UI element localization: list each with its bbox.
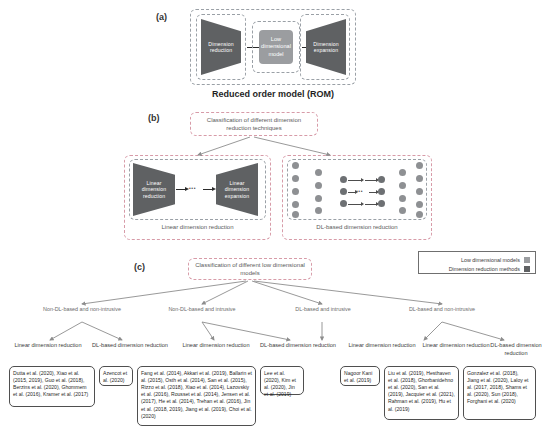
network-node bbox=[399, 182, 406, 189]
network-node bbox=[416, 175, 423, 182]
legend-swatch-1 bbox=[524, 266, 530, 272]
network-node bbox=[399, 195, 406, 202]
panel-c-root-label: Classification of different low dimensio… bbox=[193, 261, 307, 277]
citation-box-b0-l0: Dutta et al. (2020), Xiao et al. (2015, … bbox=[9, 366, 95, 407]
dimension-expansion-label: Dimension expansion bbox=[306, 19, 346, 75]
network-node-bottleneck bbox=[378, 188, 385, 195]
panel-a-low-dimensional-model-block: Low dimensional model bbox=[259, 30, 293, 64]
network-ellipsis: ••• bbox=[356, 188, 363, 194]
network-node bbox=[399, 169, 406, 176]
citation-box-b1-l1: Lee et al. (2020), Kim et al. (2020), Ji… bbox=[260, 366, 304, 395]
network-node bbox=[292, 162, 299, 169]
legend-item-dimension-reduction-methods: Dimension reduction methods bbox=[424, 264, 530, 273]
panel-a-dimension-expansion-block: Dimension expansion bbox=[306, 19, 346, 75]
network-node-bottleneck bbox=[340, 176, 347, 183]
panel-b-arrow-a bbox=[176, 189, 186, 190]
panel-b-dl-caption: DL-based dimension reduction bbox=[282, 224, 432, 230]
panel-a-low-dimensional-model-label: Low dimensional model bbox=[259, 36, 293, 58]
network-node bbox=[416, 188, 423, 195]
network-node-bottleneck bbox=[378, 200, 385, 207]
panel-c-root-node: Classification of different low dimensio… bbox=[188, 258, 312, 280]
network-node bbox=[399, 207, 406, 214]
panel-b-dl-network: ••• bbox=[287, 159, 427, 220]
network-node-bottleneck bbox=[340, 200, 347, 207]
panel-a-caption: Reduced order model (ROM) bbox=[190, 89, 356, 99]
legend-swatch-0 bbox=[524, 257, 530, 263]
leaf-label-b3-l0: Linear dimension reduction bbox=[416, 342, 496, 350]
citation-box-b3-l0: Liu et al. (2019), Hesthaven et al. (201… bbox=[384, 366, 459, 420]
branch-label-dl-intrusive: DL-based and intrusive bbox=[282, 306, 364, 313]
network-node bbox=[315, 182, 322, 189]
citation-box-b0-l1: Azencot et al. (2020) bbox=[99, 366, 133, 386]
leaf-label-b1-l1: DL-based dimension reduction bbox=[256, 342, 340, 350]
network-node bbox=[416, 201, 423, 208]
panel-b-root-label: Classification of different dimension re… bbox=[195, 116, 313, 132]
linear-dimension-expansion-label: Linear dimension expansion bbox=[216, 163, 258, 216]
branch-label-non-dl-non-intrusive: Non-DL-based and non-intrusive bbox=[36, 306, 128, 313]
leaf-label-b2-l0: Linear dimension reduction bbox=[342, 342, 422, 350]
panel-a-dimension-reduction-block: Dimension reduction bbox=[201, 19, 241, 75]
panel-b-ellipsis: ••• bbox=[189, 185, 196, 191]
branch-label-dl-non-intrusive: DL-based and non-intrusive bbox=[398, 306, 486, 313]
panel-a-letter: (a) bbox=[156, 12, 167, 22]
network-node-bottleneck bbox=[340, 188, 347, 195]
branch-label-non-dl-intrusive: Non-DL-based and intrusive bbox=[156, 306, 248, 313]
network-arrow bbox=[348, 192, 355, 193]
legend-label-1: Dimension reduction methods bbox=[449, 266, 520, 272]
citation-box-b1-l0: Fang et al. (2014), Akkari et al. (2019)… bbox=[137, 366, 256, 426]
network-node bbox=[292, 201, 299, 208]
network-node bbox=[315, 207, 322, 214]
linear-dimension-reduction-label: Linear dimension reduction bbox=[133, 163, 175, 216]
network-node bbox=[292, 188, 299, 195]
legend: Low dimensional models Dimension reducti… bbox=[418, 251, 536, 274]
network-node bbox=[315, 169, 322, 176]
network-node bbox=[416, 162, 423, 169]
panel-b-arrow-b bbox=[203, 189, 213, 190]
network-arrow bbox=[348, 204, 361, 205]
dimension-reduction-label: Dimension reduction bbox=[201, 19, 241, 75]
legend-item-low-dimensional-models: Low dimensional models bbox=[424, 255, 530, 264]
network-arrow bbox=[369, 192, 376, 193]
network-arrow bbox=[365, 204, 376, 205]
network-node bbox=[292, 175, 299, 182]
network-arrow bbox=[348, 180, 361, 181]
panel-b-linear-caption: Linear dimension reduction bbox=[124, 224, 271, 230]
citation-box-b3-l1: Gonzalez et al. (2018), Jiang et al. (20… bbox=[463, 366, 536, 420]
network-arrow bbox=[365, 180, 376, 181]
panel-b-linear-expansion-block: Linear dimension expansion bbox=[216, 163, 258, 216]
panel-b-letter: (b) bbox=[148, 113, 160, 123]
leaf-label-b1-l0: Linear dimension reduction bbox=[176, 342, 256, 350]
legend-label-0: Low dimensional models bbox=[461, 257, 520, 263]
leaf-label-b0-l1: DL-based dimension reduction bbox=[88, 342, 172, 350]
network-node bbox=[416, 211, 423, 218]
panel-b-linear-reduction-block: Linear dimension reduction bbox=[133, 163, 175, 216]
leaf-label-b0-l0: Linear dimension reduction bbox=[8, 342, 88, 350]
leaf-label-b3-l1: DL-based dimension reduction bbox=[488, 342, 544, 357]
panel-b-root-node: Classification of different dimension re… bbox=[190, 112, 318, 136]
network-node bbox=[292, 211, 299, 218]
network-node bbox=[315, 195, 322, 202]
citation-box-b2-l0: Nagoor Kani et al. (2019) bbox=[340, 366, 380, 386]
network-node-bottleneck bbox=[378, 176, 385, 183]
panel-c-letter: (c) bbox=[134, 262, 145, 272]
